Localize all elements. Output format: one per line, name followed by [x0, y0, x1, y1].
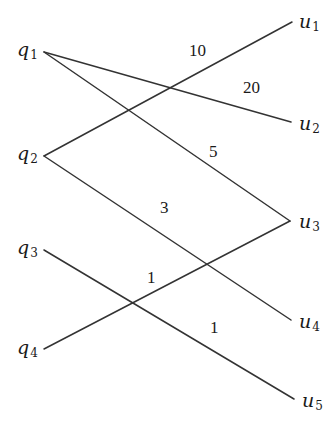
- node-subscript: 4: [312, 320, 320, 334]
- edges-layer: [0, 0, 334, 437]
- node-symbol: u: [299, 210, 311, 232]
- node-subscript: 3: [30, 246, 38, 260]
- node-q1: q1: [17, 40, 38, 61]
- edge-weight-q1-u2: 20: [243, 79, 260, 96]
- edge-weight-q3-u5: 1: [210, 319, 219, 336]
- node-q2: q2: [17, 144, 38, 165]
- node-q3: q3: [17, 238, 38, 259]
- node-symbol: q: [17, 38, 29, 60]
- node-symbol: u: [302, 389, 314, 411]
- edge-weight-q1-u3: 5: [209, 143, 218, 160]
- edge-q3-u5: [44, 250, 294, 399]
- node-symbol: q: [17, 336, 29, 358]
- node-u4: u4: [299, 312, 320, 333]
- edge-weight-q2-u4: 3: [160, 199, 169, 216]
- node-subscript: 1: [30, 48, 38, 62]
- node-subscript: 4: [30, 346, 38, 360]
- node-u5: u5: [302, 391, 323, 412]
- edge-weight-q2-u1: 10: [189, 42, 206, 59]
- node-subscript: 2: [30, 152, 38, 166]
- edge-q2-u4: [44, 156, 291, 320]
- node-symbol: u: [299, 310, 311, 332]
- node-subscript: 5: [315, 399, 323, 413]
- edge-weight-q4-u3: 1: [147, 269, 156, 286]
- edge-q4-u3: [44, 221, 290, 349]
- node-u3: u3: [299, 212, 320, 233]
- node-subscript: 1: [312, 20, 320, 34]
- node-symbol: u: [299, 10, 311, 32]
- node-symbol: q: [17, 236, 29, 258]
- node-symbol: q: [17, 142, 29, 164]
- node-u1: u1: [299, 12, 320, 33]
- node-u2: u2: [299, 114, 320, 135]
- node-q4: q4: [17, 338, 38, 359]
- node-symbol: u: [299, 112, 311, 134]
- node-subscript: 2: [312, 122, 320, 136]
- node-subscript: 3: [312, 220, 320, 234]
